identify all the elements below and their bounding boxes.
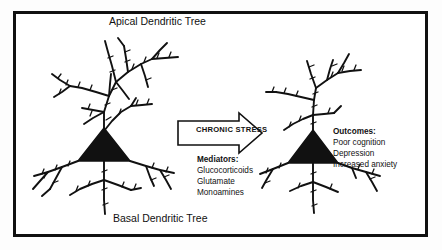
basal-tree-label: Basal Dendritic Tree	[113, 212, 208, 224]
outcomes-item: Poor cognition	[333, 138, 397, 149]
figure-border	[13, 11, 428, 237]
mediators-item: Glucocorticoids	[197, 166, 253, 177]
apical-tree-label: Apical Dendritic Tree	[109, 15, 206, 27]
mediators-item: Monoamines	[197, 188, 253, 199]
mediators-item: Glutamate	[197, 177, 253, 188]
figure-root: Apical Dendritic Tree Basal Dendritic Tr…	[0, 0, 442, 250]
mediators-heading: Mediators:	[197, 155, 253, 166]
outcomes-annotation: Outcomes: Poor cognition Depression Incr…	[333, 127, 397, 171]
outcomes-heading: Outcomes:	[333, 127, 397, 138]
outcomes-item: Increased anxiety	[333, 160, 397, 171]
outcomes-item: Depression	[333, 149, 397, 160]
chronic-stress-arrow-label: CHRONIC STRESS	[196, 126, 267, 135]
mediators-annotation: Mediators: Glucocorticoids Glutamate Mon…	[197, 155, 253, 199]
